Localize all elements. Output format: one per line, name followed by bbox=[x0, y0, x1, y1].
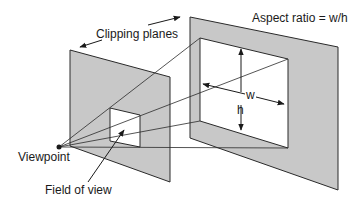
field-of-view-label: Field of view bbox=[45, 183, 112, 197]
aspect-ratio-label: Aspect ratio = w/h bbox=[252, 11, 348, 25]
viewpoint-dot bbox=[57, 145, 62, 150]
height-label: h bbox=[237, 103, 244, 117]
width-label: w bbox=[245, 88, 255, 102]
clipping-planes-label: Clipping planes bbox=[96, 27, 178, 41]
near-plane-window bbox=[110, 108, 140, 147]
viewpoint-label: Viewpoint bbox=[18, 150, 70, 164]
frustum-diagram: Aspect ratio = w/h Clipping planes Viewp… bbox=[0, 0, 362, 208]
far-clipping-plane bbox=[190, 17, 338, 190]
near-clipping-plane bbox=[70, 50, 170, 182]
